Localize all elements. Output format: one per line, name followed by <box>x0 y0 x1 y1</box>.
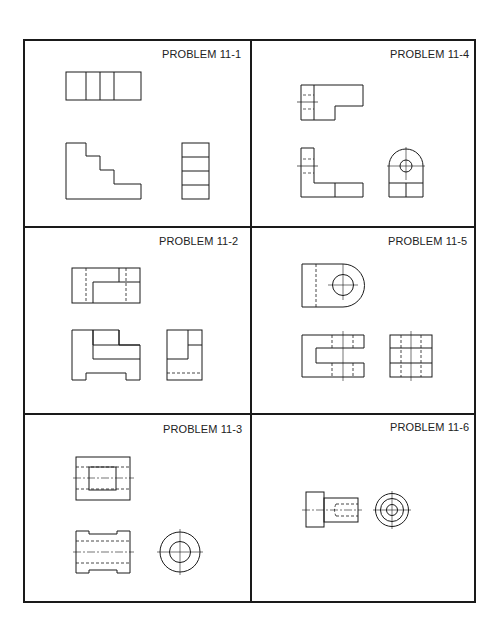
panel-grid <box>24 40 475 602</box>
problem-11-1-drawing <box>66 72 209 199</box>
problem-11-3-drawing <box>73 457 203 575</box>
problem-11-6-drawing <box>302 491 411 529</box>
drawing-canvas <box>0 0 503 631</box>
problem-11-2-drawing <box>72 268 202 380</box>
problem-11-5-drawing <box>302 264 432 381</box>
problem-11-4-drawing <box>297 85 425 197</box>
drawing-sheet: PROBLEM 11-1 PROBLEM 11-4 PROBLEM 11-2 P… <box>0 0 503 631</box>
